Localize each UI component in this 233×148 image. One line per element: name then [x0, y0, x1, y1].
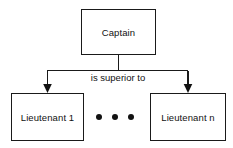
- node-lieutenant-n[interactable]: Lieutenant n: [150, 93, 226, 141]
- edge-label-is-superior-to: is superior to: [66, 72, 170, 83]
- ellipsis-indicator: [96, 110, 134, 124]
- arrowhead-lieutenant-n: [184, 84, 193, 93]
- arrowhead-lieutenant-1: [43, 84, 52, 93]
- node-lieutenant-n-label: Lieutenant n: [161, 112, 215, 123]
- node-captain-label: Captain: [102, 27, 135, 38]
- ellipsis-dot: [96, 114, 102, 120]
- diagram-canvas: Captain Lieutenant 1 Lieutenant n is sup…: [0, 0, 233, 148]
- node-captain[interactable]: Captain: [81, 9, 156, 55]
- ellipsis-dot: [128, 114, 134, 120]
- node-lieutenant-1-label: Lieutenant 1: [21, 112, 75, 123]
- ellipsis-dot: [112, 114, 118, 120]
- node-lieutenant-1[interactable]: Lieutenant 1: [11, 93, 84, 141]
